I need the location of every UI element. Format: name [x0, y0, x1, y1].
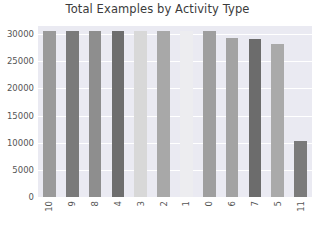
y-tick-label: 10000 — [0, 138, 34, 148]
y-tick-label: 15000 — [0, 111, 34, 121]
chart-title: Total Examples by Activity Type — [0, 2, 315, 16]
bar — [89, 31, 102, 197]
x-tick-label: 8 — [91, 201, 100, 206]
bar — [271, 44, 284, 197]
x-tick-label: 10 — [45, 201, 54, 212]
bar-series — [38, 26, 312, 197]
bar — [134, 31, 147, 197]
x-tick-label: 9 — [68, 201, 77, 206]
x-tick-label: 4 — [114, 201, 123, 206]
x-tick-label: 11 — [297, 201, 306, 212]
bar — [203, 31, 216, 197]
chart-figure: Total Examples by Activity Type 05000100… — [0, 0, 315, 230]
x-tick-label: 6 — [228, 201, 237, 206]
y-tick-label: 20000 — [0, 83, 34, 93]
plot-area — [38, 26, 312, 197]
y-tick-label: 5000 — [0, 165, 34, 175]
y-axis-tick-labels: 050001000015000200002500030000 — [0, 26, 34, 197]
bar — [180, 31, 193, 197]
y-tick-label: 30000 — [0, 29, 34, 39]
x-tick-label: 7 — [251, 201, 260, 206]
x-axis-tick-labels: 10984321067511 — [38, 197, 312, 230]
y-tick-label: 25000 — [0, 56, 34, 66]
y-tick-label: 0 — [0, 192, 34, 202]
bar — [226, 38, 239, 197]
x-tick-label: 5 — [274, 201, 283, 206]
bar — [249, 39, 262, 197]
bar — [294, 141, 307, 197]
bar — [157, 31, 170, 197]
x-tick-label: 3 — [137, 201, 146, 206]
x-tick-label: 2 — [160, 201, 169, 206]
bar — [66, 31, 79, 197]
bar — [112, 31, 125, 197]
x-tick-label: 0 — [205, 201, 214, 206]
bar — [43, 31, 56, 197]
x-tick-label: 1 — [182, 201, 191, 206]
